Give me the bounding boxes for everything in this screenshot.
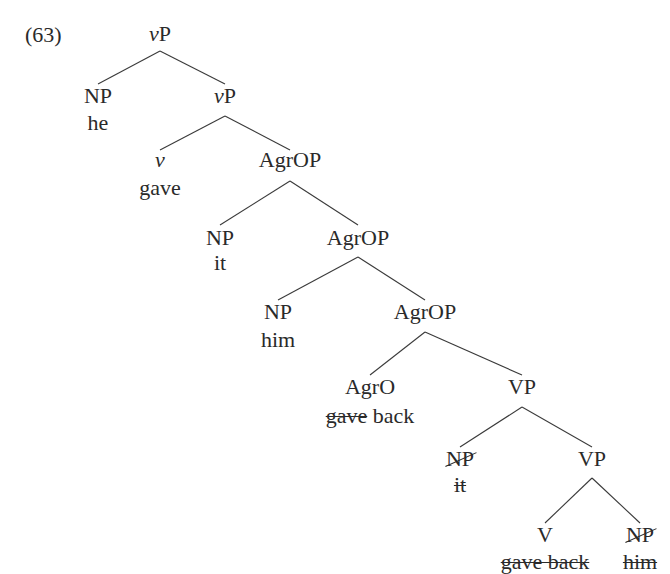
node-agrop-3: AgrOP [394,300,456,324]
branch-line [290,181,358,225]
category-v: v [149,21,159,46]
branch-line [98,51,160,84]
branch-line [545,478,592,523]
node-np-subject: NP [84,84,112,108]
branch-line [225,116,290,150]
category-p: P [159,21,171,46]
word-back: back [373,403,415,428]
branch-line [370,332,425,375]
node-agro-head: AgrO [345,375,395,399]
branch-line [278,257,358,300]
branch-line [160,116,225,150]
struck-word-it: it [454,473,466,497]
struck-word-gave: gave [326,403,368,428]
word-him: him [261,328,295,352]
node-vp-2: VP [578,447,606,471]
node-vP-root: vP [149,22,171,46]
struck-word-gave-back: gave back [501,550,590,574]
word-gave-back: gave back [326,404,415,428]
category-p: P [224,83,236,108]
branch-line [160,51,225,84]
node-agrop-2: AgrOP [327,226,389,250]
category-v: v [214,83,224,108]
struck-category-np: NP [446,447,474,471]
branch-line [522,407,592,447]
node-np-it-trace: NP [446,447,474,471]
node-vP-inner: vP [214,84,236,108]
node-agrop-1: AgrOP [259,148,321,172]
node-v-head: v [155,148,165,172]
branch-line [358,257,425,300]
word-he: he [88,111,109,135]
branch-line [425,332,522,375]
struck-word-him: him [623,550,657,574]
branch-line [220,181,290,225]
branch-line [592,478,640,523]
node-np-him-trace: NP [626,523,654,547]
word-gave: gave [139,176,181,200]
node-np-him: NP [264,300,292,324]
node-v-trace: V [537,523,553,547]
node-np-it: NP [206,226,234,250]
node-vp-1: VP [508,375,536,399]
struck-category-np: NP [626,523,654,547]
word-it: it [214,251,226,275]
branch-line [460,407,522,447]
